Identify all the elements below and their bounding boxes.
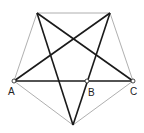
label-c: C xyxy=(130,86,137,97)
label-a: A xyxy=(8,86,15,97)
point-b xyxy=(85,79,89,83)
pentagram-diagram: A B C xyxy=(0,0,144,133)
star xyxy=(14,13,133,125)
label-b: B xyxy=(88,87,95,98)
point-c xyxy=(131,79,135,83)
point-a xyxy=(12,79,16,83)
